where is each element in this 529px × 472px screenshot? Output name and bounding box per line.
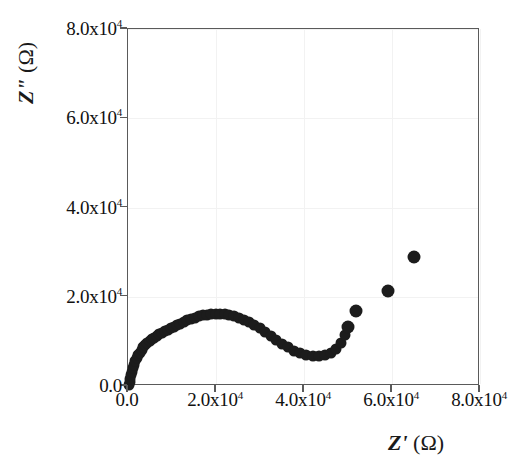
data-point bbox=[159, 326, 170, 337]
data-point bbox=[249, 320, 260, 331]
data-point bbox=[325, 347, 336, 358]
data-point bbox=[151, 331, 162, 342]
data-point bbox=[130, 356, 141, 367]
data-point bbox=[131, 353, 142, 364]
x-tick-exponent: 4 bbox=[326, 389, 331, 401]
x-axis-unit: (Ω) bbox=[413, 430, 444, 455]
x-tick-mantissa: 6.0x10 bbox=[363, 389, 413, 410]
data-point bbox=[146, 334, 157, 345]
plot-area bbox=[127, 28, 479, 385]
x-tick-mantissa: 8.0x10 bbox=[451, 389, 501, 410]
data-point bbox=[178, 316, 189, 327]
data-point bbox=[229, 311, 240, 322]
data-point bbox=[193, 311, 204, 322]
y-axis-label: Z" (Ω) bbox=[13, 3, 39, 143]
gridline-horizontal bbox=[128, 297, 478, 298]
data-point bbox=[277, 339, 288, 350]
data-point bbox=[244, 317, 255, 328]
data-point bbox=[144, 336, 155, 347]
x-axis-label: Z' (Ω) bbox=[388, 430, 444, 456]
x-axis-symbol: Z' bbox=[388, 430, 408, 455]
data-point bbox=[162, 324, 173, 335]
gridline-vertical bbox=[216, 29, 217, 384]
y-tick-exponent: 4 bbox=[117, 196, 122, 208]
x-tick-mantissa: 2.0x10 bbox=[187, 389, 237, 410]
y-tick-label: 4.0x104 bbox=[66, 197, 122, 216]
data-series-impedance bbox=[128, 29, 478, 384]
gridline-vertical bbox=[480, 29, 481, 384]
y-tick-exponent: 4 bbox=[117, 285, 122, 297]
y-axis-symbol: Z" bbox=[13, 78, 38, 104]
x-tick-exponent: 4 bbox=[414, 389, 419, 401]
data-point bbox=[307, 351, 318, 362]
y-tick-exponent: 4 bbox=[117, 17, 122, 29]
gridline-horizontal bbox=[128, 208, 478, 209]
data-point bbox=[301, 350, 312, 361]
y-tick-mantissa: 6.0x10 bbox=[66, 107, 116, 128]
data-point bbox=[320, 349, 331, 360]
data-point bbox=[197, 310, 208, 321]
data-point bbox=[186, 313, 197, 324]
data-point bbox=[175, 318, 186, 329]
data-point bbox=[129, 359, 140, 370]
data-point bbox=[136, 344, 147, 355]
data-point bbox=[125, 373, 136, 384]
data-point bbox=[254, 323, 265, 334]
data-point bbox=[138, 342, 149, 353]
data-point bbox=[331, 343, 342, 354]
data-point bbox=[182, 315, 193, 326]
y-tick-mantissa: 4.0x10 bbox=[66, 196, 116, 217]
data-point bbox=[172, 320, 183, 331]
data-point bbox=[265, 331, 276, 342]
data-point bbox=[189, 312, 200, 323]
gridline-horizontal bbox=[128, 29, 478, 30]
data-point bbox=[233, 312, 244, 323]
data-point bbox=[126, 370, 137, 381]
data-point bbox=[134, 347, 145, 358]
data-point bbox=[342, 320, 355, 333]
data-point bbox=[126, 366, 137, 377]
data-point bbox=[349, 304, 362, 317]
data-point bbox=[288, 345, 299, 356]
y-axis-unit: (Ω) bbox=[13, 42, 38, 73]
data-point bbox=[260, 327, 271, 338]
y-tick-label: 8.0x104 bbox=[66, 19, 122, 38]
data-point bbox=[201, 309, 212, 320]
data-point bbox=[408, 251, 421, 264]
y-tick-mantissa: 2.0x10 bbox=[66, 285, 116, 306]
x-tick-label: 6.0x104 bbox=[363, 390, 419, 409]
data-point bbox=[339, 330, 350, 341]
data-point bbox=[133, 350, 144, 361]
gridline-vertical bbox=[392, 29, 393, 384]
data-point bbox=[142, 338, 153, 349]
data-point bbox=[224, 310, 235, 321]
data-point bbox=[156, 327, 167, 338]
y-tick-mantissa: 8.0x10 bbox=[66, 18, 116, 39]
data-point bbox=[154, 329, 165, 340]
x-tick-exponent: 4 bbox=[502, 389, 507, 401]
data-point bbox=[313, 351, 324, 362]
data-point bbox=[219, 309, 230, 320]
x-tick-label: 2.0x104 bbox=[187, 390, 243, 409]
x-tick-mantissa: 4.0x10 bbox=[275, 389, 325, 410]
data-point bbox=[238, 314, 249, 325]
data-point bbox=[271, 335, 282, 346]
data-point bbox=[206, 309, 217, 320]
x-tick-exponent: 4 bbox=[238, 389, 243, 401]
gridline-horizontal bbox=[128, 118, 478, 119]
nyquist-plot-figure: 0.02.0x1044.0x1046.0x1048.0x1040.02.0x10… bbox=[0, 0, 529, 472]
data-point bbox=[149, 332, 160, 343]
data-point bbox=[128, 363, 139, 374]
y-tick-exponent: 4 bbox=[117, 106, 122, 118]
y-tick-label: 2.0x104 bbox=[66, 286, 122, 305]
data-point bbox=[282, 342, 293, 353]
data-point bbox=[140, 340, 151, 351]
x-tick-label: 4.0x104 bbox=[275, 390, 331, 409]
y-tick-label: 6.0x104 bbox=[66, 108, 122, 127]
data-point bbox=[335, 337, 346, 348]
gridline-vertical bbox=[304, 29, 305, 384]
y-tick-label: 0.0 bbox=[99, 376, 122, 395]
data-point bbox=[168, 321, 179, 332]
x-tick-label: 8.0x104 bbox=[451, 390, 507, 409]
data-point bbox=[165, 323, 176, 334]
